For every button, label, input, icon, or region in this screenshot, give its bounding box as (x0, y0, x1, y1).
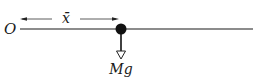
arrowhead-left-icon (20, 17, 27, 21)
center-of-mass-diagram: x̄ O Mg (0, 0, 261, 82)
distance-label: x̄ (62, 10, 70, 26)
origin-label: O (4, 20, 16, 38)
arrowhead-right-icon (112, 17, 119, 21)
hollow-arrowhead-icon (117, 51, 126, 59)
force-label: Mg (108, 61, 132, 77)
